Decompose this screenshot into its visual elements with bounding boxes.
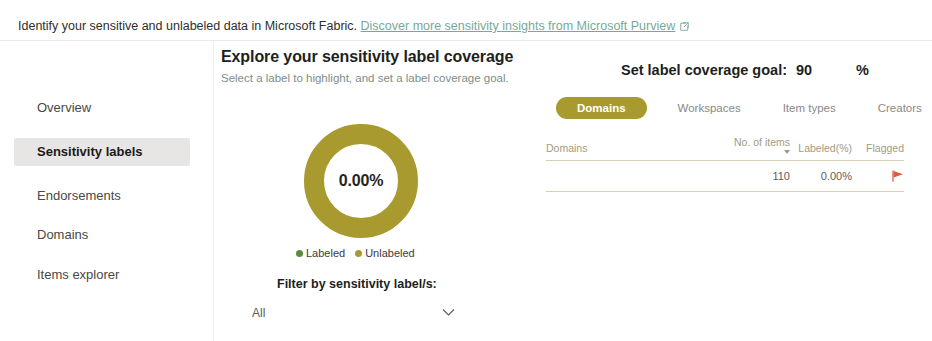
sidebar-item-overview[interactable]: Overview (14, 94, 190, 122)
label-coverage-donut-chart: 0.00% (302, 122, 420, 240)
tab-label: Workspaces (678, 102, 741, 114)
tab-label: Domains (577, 102, 626, 114)
sidebar-item-endorsements[interactable]: Endorsements (14, 182, 190, 210)
page-subtitle: Select a label to highlight, and set a l… (221, 72, 513, 84)
cell-flagged (852, 161, 904, 192)
purview-insights-link[interactable]: Discover more sensitivity insights from … (361, 19, 676, 33)
tab-creators[interactable]: Creators (867, 97, 932, 119)
tab-label: Item types (783, 102, 836, 114)
column-header-labeled-pct[interactable]: Labeled(%) (790, 136, 852, 161)
chevron-down-icon[interactable] (442, 308, 455, 317)
content-header: Explore your sensitivity label coverage … (221, 48, 513, 84)
donut-center-percentage: 0.00% (302, 122, 420, 240)
column-header-label: Labeled(%) (798, 142, 852, 154)
sidebar-item-label: Sensitivity labels (37, 144, 143, 159)
legend-label: Labeled (306, 247, 345, 259)
legend-item-labeled[interactable]: Labeled (296, 247, 345, 259)
column-header-flagged[interactable]: Flagged (852, 136, 904, 161)
tab-domains[interactable]: Domains (556, 97, 647, 119)
chart-legend: Labeled Unlabeled (296, 247, 415, 259)
sidebar-item-items-explorer[interactable]: Items explorer (14, 261, 190, 289)
sidebar-item-label: Domains (37, 227, 88, 242)
cell-no-of-items: 110 (716, 161, 790, 192)
table-header-row: Domains No. of items Labeled(%) Flagged (546, 136, 904, 161)
legend-label: Unlabeled (365, 247, 415, 259)
percent-sign-label: % (856, 62, 869, 78)
column-header-no-of-items[interactable]: No. of items (716, 136, 790, 161)
column-header-domains[interactable]: Domains (546, 136, 716, 161)
external-link-icon[interactable] (680, 22, 689, 31)
cell-domain-name (546, 161, 716, 192)
banner-message-text: Identify your sensitive and unlabeled da… (18, 19, 357, 33)
sidebar-item-label: Overview (37, 100, 91, 115)
table-row[interactable]: 110 0.00% (546, 161, 904, 192)
coverage-goal-input[interactable]: 90 (796, 62, 818, 78)
breakdown-tab-bar: Domains Workspaces Item types Creators (556, 97, 932, 119)
flag-icon (891, 170, 904, 182)
coverage-goal-label: Set label coverage goal: (621, 62, 787, 78)
tab-item-types[interactable]: Item types (772, 97, 847, 119)
coverage-table: Domains No. of items Labeled(%) Flagged … (546, 136, 904, 192)
column-header-label: Domains (546, 142, 587, 154)
cell-labeled-percentage: 0.00% (790, 161, 852, 192)
top-banner: Identify your sensitive and unlabeled da… (0, 0, 932, 41)
column-header-label: Flagged (866, 142, 904, 154)
legend-swatch-labeled-icon (296, 250, 303, 257)
column-header-label: No. of items (734, 136, 790, 148)
tab-workspaces[interactable]: Workspaces (667, 97, 752, 119)
sidebar-item-sensitivity-labels[interactable]: Sensitivity labels (14, 138, 190, 166)
sidebar: Overview Sensitivity labels Endorsements… (0, 41, 214, 341)
coverage-goal-group: Set label coverage goal: 90 % (621, 62, 869, 78)
filter-selected-value: All (252, 306, 265, 320)
sidebar-item-label: Items explorer (37, 267, 119, 282)
legend-item-unlabeled[interactable]: Unlabeled (355, 247, 415, 259)
banner-message: Identify your sensitive and unlabeled da… (18, 19, 689, 33)
sidebar-item-label: Endorsements (37, 188, 121, 203)
tab-label: Creators (878, 102, 922, 114)
sidebar-item-domains[interactable]: Domains (14, 221, 190, 249)
filter-label: Filter by sensitivity label/s: (277, 277, 437, 291)
page-title: Explore your sensitivity label coverage (221, 48, 513, 66)
legend-swatch-unlabeled-icon (355, 250, 362, 257)
sensitivity-label-filter-dropdown[interactable]: All (249, 302, 461, 328)
